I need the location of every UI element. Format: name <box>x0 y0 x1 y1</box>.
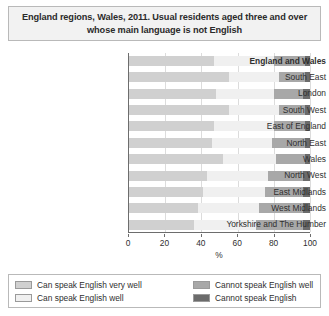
legend-label: Cannot speak English well <box>215 280 313 290</box>
category-label: London <box>203 88 329 98</box>
x-tick-label: 40 <box>186 238 216 248</box>
category-label: East of England <box>203 121 329 131</box>
category-label: Wales <box>203 154 329 164</box>
legend-label: Cannot speak English <box>215 293 296 303</box>
bar-segment <box>129 138 212 148</box>
category-label: West Midlands <box>203 203 329 213</box>
x-tick <box>201 234 202 237</box>
page-title: England regions, Wales, 2011. Usual resi… <box>9 11 320 36</box>
x-tick-label: 80 <box>259 238 289 248</box>
legend-swatch <box>15 281 32 289</box>
legend-item[interactable]: Cannot speak English well <box>193 280 313 290</box>
category-label: North East <box>203 138 329 148</box>
bar-segment <box>129 220 194 230</box>
x-tick-label: 100 <box>295 238 325 248</box>
chart-page: England regions, Wales, 2011. Usual resi… <box>0 0 329 316</box>
bar-segment <box>129 203 198 213</box>
x-tick-label: 0 <box>113 238 143 248</box>
bar-segment <box>129 171 207 181</box>
legend-label: Can speak English well <box>37 293 124 303</box>
chart-title-box: England regions, Wales, 2011. Usual resi… <box>8 6 321 41</box>
chart-area: England and WalesSouth EastLondonSouth W… <box>0 48 329 266</box>
bar-segment <box>129 121 214 131</box>
category-label: England and Wales <box>203 56 329 66</box>
x-tick <box>237 234 238 237</box>
x-tick-label: 60 <box>222 238 252 248</box>
x-axis-title: % <box>128 250 310 260</box>
bar-segment <box>129 56 214 66</box>
x-tick <box>274 234 275 237</box>
legend-swatch <box>193 281 210 289</box>
legend-swatch <box>193 294 210 302</box>
category-label: North West <box>203 170 329 180</box>
category-label: South West <box>203 105 329 115</box>
category-label: East Midlands <box>203 187 329 197</box>
x-tick <box>310 234 311 237</box>
legend-item[interactable]: Can speak English well <box>15 293 124 303</box>
legend-label: Can speak English very well <box>37 280 142 290</box>
category-label: South East <box>203 72 329 82</box>
legend-item[interactable]: Can speak English very well <box>15 280 142 290</box>
x-tick <box>128 234 129 237</box>
x-tick-label: 20 <box>149 238 179 248</box>
legend-swatch <box>15 294 32 302</box>
x-tick <box>164 234 165 237</box>
bar-segment <box>129 187 203 197</box>
category-label: Yorkshire and The Humber <box>203 219 329 229</box>
legend-item[interactable]: Cannot speak English <box>193 293 296 303</box>
chart-legend: Can speak English very wellCan speak Eng… <box>8 274 321 308</box>
